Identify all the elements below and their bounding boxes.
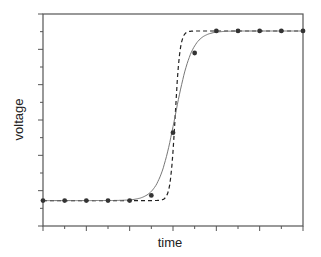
y-axis-label: voltage (11, 90, 26, 150)
data-markers (41, 29, 306, 203)
axis-ticks (38, 14, 303, 231)
x-axis-label: time (140, 235, 200, 250)
fit-curve (43, 31, 303, 201)
chart-canvas (0, 0, 321, 257)
ideal-step-line (43, 31, 303, 201)
plot-frame (43, 14, 303, 226)
